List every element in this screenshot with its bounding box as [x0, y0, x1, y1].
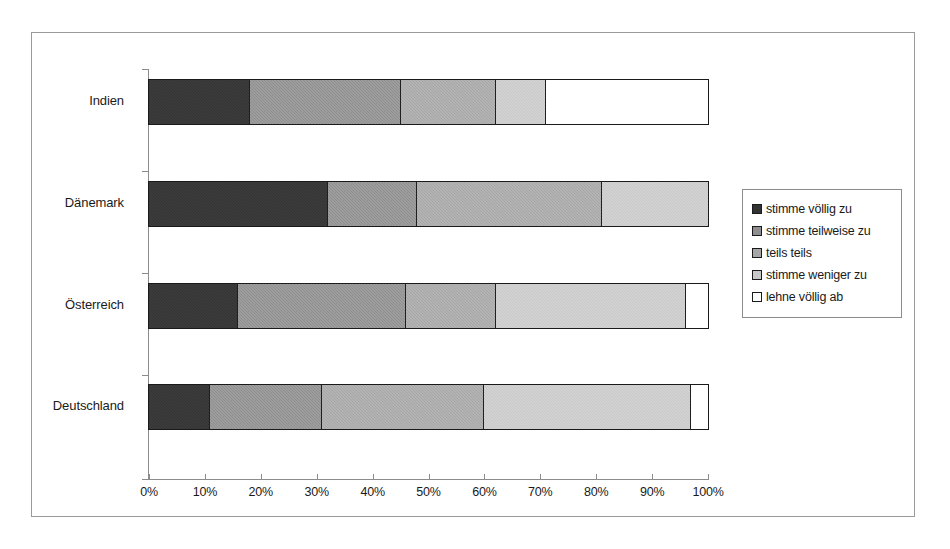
x-axis-tick-label: 20%: [231, 485, 291, 499]
x-axis-tick: [708, 474, 709, 480]
legend-item[interactable]: stimme weniger zu: [752, 264, 892, 286]
bar-segment: [149, 80, 250, 124]
bar-segment: [328, 182, 417, 226]
x-axis-tick: [317, 474, 318, 480]
y-axis-category-label: Österreich: [0, 297, 124, 312]
x-axis-tick-label: 70%: [510, 485, 570, 499]
bar-segment: [250, 80, 401, 124]
y-axis-category-label: Indien: [0, 93, 124, 108]
legend-item[interactable]: lehne völlig ab: [752, 286, 892, 308]
bar-segment: [238, 284, 406, 328]
x-axis-tick-label: 80%: [566, 485, 626, 499]
bar-segment: [406, 284, 495, 328]
bar-segment: [546, 80, 708, 124]
chart-frame: 0%10%20%30%40%50%60%70%80%90%100% Indien…: [31, 32, 915, 517]
bar-segment: [602, 182, 708, 226]
bar-segment: [417, 182, 601, 226]
x-axis-tick: [261, 474, 262, 480]
y-axis-category-label: Dänemark: [0, 195, 124, 210]
bar-segment: [496, 284, 686, 328]
bar-segment: [322, 385, 484, 429]
x-axis-tick: [540, 474, 541, 480]
legend-swatch-icon: [752, 226, 762, 236]
y-axis-tick: [142, 375, 149, 376]
legend-swatch-icon: [752, 270, 762, 280]
legend-swatch-icon: [752, 248, 762, 258]
bar-segment: [149, 385, 210, 429]
x-axis-tick-label: 10%: [175, 485, 235, 499]
y-axis-category-label: Deutschland: [0, 398, 124, 413]
x-axis-tick: [205, 474, 206, 480]
x-axis-tick: [652, 474, 653, 480]
legend-swatch-icon: [752, 204, 762, 214]
legend-item[interactable]: teils teils: [752, 242, 892, 264]
legend-item-label: lehne völlig ab: [766, 290, 843, 304]
bar-segment: [484, 385, 691, 429]
bar-segment: [149, 182, 328, 226]
bar-segment: [210, 385, 322, 429]
x-axis-tick-label: 60%: [454, 485, 514, 499]
stacked-bar: [149, 80, 708, 124]
legend-swatch-icon: [752, 292, 762, 302]
bar-segment: [149, 284, 238, 328]
x-axis-tick: [484, 474, 485, 480]
x-axis-tick-label: 40%: [343, 485, 403, 499]
bar-segment: [686, 284, 708, 328]
y-axis-tick: [142, 273, 149, 274]
legend-item[interactable]: stimme völlig zu: [752, 198, 892, 220]
legend-item-label: teils teils: [766, 246, 812, 260]
stacked-bar: [149, 182, 708, 226]
x-axis-tick: [429, 474, 430, 480]
y-axis-tick: [142, 171, 149, 172]
x-axis-tick: [149, 474, 150, 480]
stacked-bar: [149, 385, 708, 429]
legend-item-label: stimme weniger zu: [766, 268, 867, 282]
bar-segment: [691, 385, 708, 429]
y-axis-tick: [142, 479, 149, 480]
stacked-bar: [149, 284, 708, 328]
x-axis-tick-label: 100%: [678, 485, 738, 499]
bar-segment: [496, 80, 546, 124]
x-axis-tick-label: 30%: [287, 485, 347, 499]
x-axis-tick: [596, 474, 597, 480]
legend-item-label: stimme völlig zu: [766, 202, 852, 216]
legend-item[interactable]: stimme teilweise zu: [752, 220, 892, 242]
chart-legend: stimme völlig zustimme teilweise zuteils…: [742, 189, 902, 318]
y-axis-tick: [142, 69, 149, 70]
bar-segment: [401, 80, 496, 124]
x-axis-tick-label: 0%: [119, 485, 179, 499]
legend-item-label: stimme teilweise zu: [766, 224, 871, 238]
x-axis-tick-label: 90%: [622, 485, 682, 499]
x-axis-tick-label: 50%: [399, 485, 459, 499]
x-axis-tick: [373, 474, 374, 480]
